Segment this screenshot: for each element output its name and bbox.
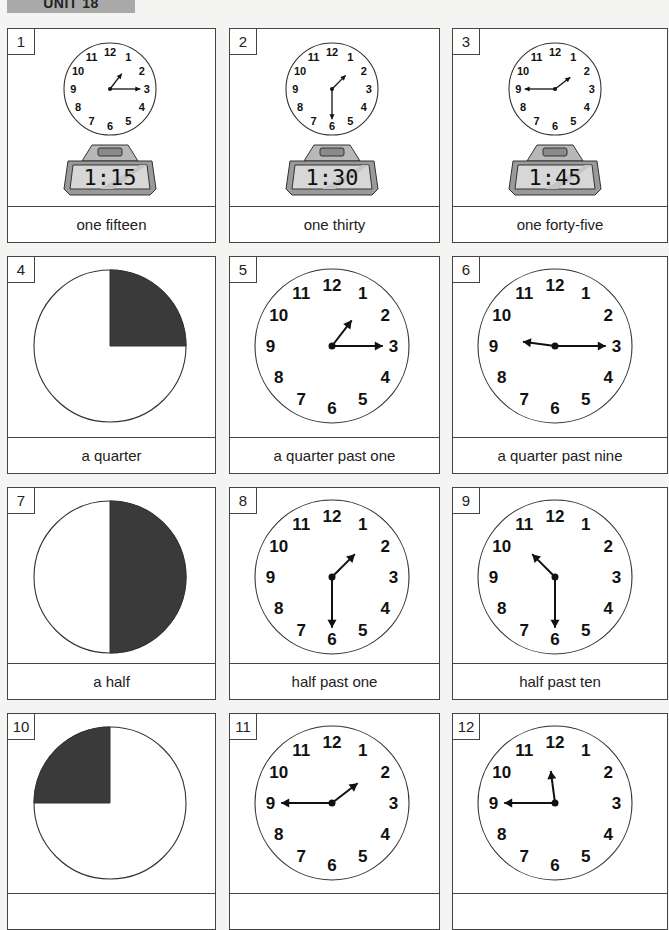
- item-number: 9: [453, 488, 480, 514]
- clock-numeral: 8: [274, 368, 283, 387]
- clock-numeral: 1: [570, 51, 576, 63]
- clock-numeral: 7: [311, 115, 317, 127]
- illustration: 1212345678910111:45: [453, 29, 669, 208]
- clock-numeral: 3: [366, 83, 372, 95]
- clock-numeral: 9: [292, 83, 298, 95]
- clock-numeral: 2: [361, 65, 367, 77]
- clock-numeral: 7: [296, 390, 305, 409]
- clock-numeral: 4: [381, 368, 391, 387]
- clock-numeral: 5: [347, 115, 353, 127]
- clock-numeral: 2: [381, 306, 390, 325]
- analog-clock: 121234567891011: [478, 500, 632, 654]
- clock-numeral: 8: [274, 599, 283, 618]
- clock-numeral: 12: [104, 46, 116, 58]
- clock-numeral: 5: [125, 115, 131, 127]
- clock-numeral: 9: [489, 568, 498, 587]
- analog-clock: 121234567891011: [478, 269, 632, 423]
- item-number: 5: [230, 257, 257, 283]
- time-label: half past one: [230, 663, 439, 699]
- illustration: 1212345678910111:30: [230, 29, 441, 208]
- clock-numeral: 6: [329, 120, 335, 132]
- time-label: one thirty: [230, 206, 439, 242]
- illustration: 121234567891011: [230, 714, 441, 895]
- clock-numeral: 10: [492, 537, 511, 556]
- clock-numeral: 11: [292, 284, 310, 303]
- exercise-cell-9: 1212345678910119half past ten: [452, 487, 668, 700]
- time-label: a half: [8, 663, 215, 699]
- analog-clock: 121234567891011: [478, 726, 632, 880]
- clock-numeral: 4: [361, 101, 368, 113]
- digital-alarm-clock: 1:30: [286, 145, 378, 195]
- clock-numeral: 6: [327, 630, 336, 649]
- clock-numeral: 8: [75, 101, 81, 113]
- exercise-cell-4: 4a quarter: [7, 256, 216, 474]
- fraction-circle: [34, 501, 186, 653]
- clock-numeral: 5: [358, 390, 367, 409]
- clock-numeral: 5: [358, 847, 367, 866]
- clock-numeral: 9: [266, 568, 275, 587]
- clock-numeral: 6: [327, 856, 336, 875]
- illustration: 121234567891011: [453, 714, 669, 895]
- illustration: [8, 714, 217, 895]
- clock-numeral: 7: [519, 621, 528, 640]
- illustration: 1212345678910111:15: [8, 29, 217, 208]
- digital-alarm-clock: 1:45: [509, 145, 601, 195]
- analog-clock: 121234567891011: [255, 726, 409, 880]
- exercise-cell-10: 10: [7, 713, 216, 930]
- item-number: 6: [453, 257, 480, 283]
- clock-numeral: 2: [381, 537, 390, 556]
- clock-numeral: 1: [581, 515, 590, 534]
- item-number: 1: [8, 29, 35, 55]
- clock-numeral: 5: [581, 621, 590, 640]
- clock-numeral: 3: [389, 568, 398, 587]
- item-number: 11: [230, 714, 257, 740]
- clock-numeral: 3: [612, 794, 621, 813]
- exercise-cell-2: 1212345678910111:302one thirty: [229, 28, 440, 243]
- time-label: one forty-five: [453, 206, 667, 242]
- clock-numeral: 12: [323, 276, 342, 295]
- clock-numeral: 5: [581, 847, 590, 866]
- clock-numeral: 11: [292, 741, 310, 760]
- clock-numeral: 6: [550, 399, 559, 418]
- clock-numeral: 6: [552, 120, 558, 132]
- illustration: [8, 257, 217, 439]
- clock-numeral: 3: [144, 83, 150, 95]
- item-number: 4: [8, 257, 35, 283]
- item-number: 12: [453, 714, 480, 740]
- clock-numeral: 12: [326, 46, 338, 58]
- clock-numeral: 11: [515, 741, 533, 760]
- time-label: one fifteen: [8, 206, 215, 242]
- illustration: 121234567891011: [230, 257, 441, 439]
- illustration: 121234567891011: [453, 257, 669, 439]
- analog-clock: 121234567891011: [64, 43, 156, 135]
- clock-numeral: 7: [89, 115, 95, 127]
- clock-numeral: 8: [520, 101, 526, 113]
- clock-numeral: 10: [517, 65, 529, 77]
- item-number: 3: [453, 29, 480, 55]
- clock-numeral: 1: [347, 51, 353, 63]
- clock-numeral: 2: [604, 537, 613, 556]
- clock-numeral: 3: [612, 337, 621, 356]
- clock-numeral: 2: [584, 65, 590, 77]
- analog-clock: 121234567891011: [255, 269, 409, 423]
- clock-numeral: 10: [492, 306, 511, 325]
- clock-numeral: 2: [604, 763, 613, 782]
- time-label: a quarter past nine: [453, 437, 667, 473]
- shaded-portion: [34, 727, 110, 803]
- clock-numeral: 11: [86, 51, 98, 63]
- clock-numeral: 9: [266, 337, 275, 356]
- clock-numeral: 6: [550, 630, 559, 649]
- exercise-cell-11: 12123456789101111: [229, 713, 440, 930]
- exercise-cell-7: 7a half: [7, 487, 216, 700]
- time-label: half past ten: [453, 663, 667, 699]
- clock-numeral: 8: [497, 599, 506, 618]
- fraction-circle: [34, 270, 186, 422]
- time-label: [8, 893, 215, 929]
- digital-time: 1:45: [529, 165, 582, 190]
- clock-numeral: 1: [125, 51, 131, 63]
- clock-numeral: 6: [327, 399, 336, 418]
- clock-numeral: 4: [604, 825, 614, 844]
- clock-numeral: 10: [269, 763, 288, 782]
- analog-clock: 121234567891011: [255, 500, 409, 654]
- clock-numeral: 5: [570, 115, 576, 127]
